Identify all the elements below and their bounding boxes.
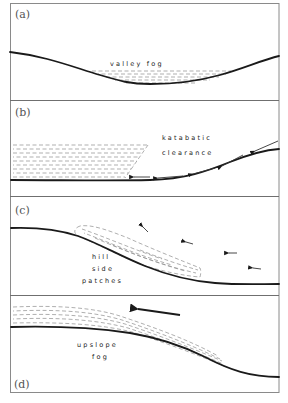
caption-clearance: clearance bbox=[162, 149, 214, 157]
panel-label-b: (b) bbox=[15, 106, 31, 119]
arrow-icon bbox=[193, 168, 215, 174]
panel-label-c: (c) bbox=[15, 204, 30, 217]
caption-hill: hill bbox=[92, 253, 110, 261]
caption-side: side bbox=[92, 265, 114, 273]
fog-types-diagram: (a) valley fog (b) bbox=[0, 0, 288, 403]
panel-d: upslope fog (d) bbox=[11, 306, 279, 391]
upslope-fog-wedge bbox=[13, 306, 224, 366]
wind-arrows bbox=[143, 227, 261, 269]
caption-patches: patches bbox=[82, 277, 123, 285]
caption-upslope: upslope bbox=[77, 341, 118, 349]
upslope-ground-profile bbox=[11, 327, 279, 377]
arrow-icon bbox=[186, 242, 193, 244]
caption-katabatic: katabatic bbox=[162, 134, 212, 142]
arrow-icon bbox=[143, 227, 148, 232]
caption-valley-fog: valley fog bbox=[110, 60, 164, 68]
panel-c: (c) hill side patches bbox=[11, 204, 279, 285]
panel-label-d: (d) bbox=[14, 378, 30, 391]
arrow-icon bbox=[222, 155, 243, 166]
wind-arrow-icon bbox=[138, 309, 180, 315]
valley-fog-block bbox=[13, 145, 148, 178]
panel-b: (b) katabatic clearance bbox=[11, 106, 279, 180]
caption-fog: fog bbox=[92, 353, 109, 361]
katabatic-flow-arrows bbox=[134, 141, 278, 178]
valley-ground-profile bbox=[10, 52, 279, 84]
panel-a: (a) valley fog bbox=[10, 8, 279, 84]
arrow-icon bbox=[253, 268, 261, 269]
panel-label-a: (a) bbox=[15, 8, 30, 21]
